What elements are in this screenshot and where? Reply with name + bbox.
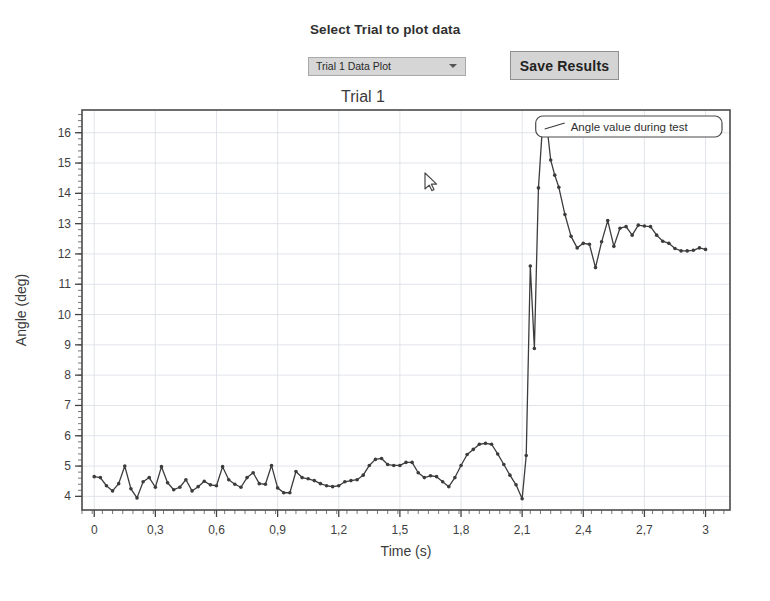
data-point <box>533 347 537 351</box>
data-point <box>416 471 420 475</box>
save-results-button[interactable]: Save Results <box>510 51 619 80</box>
data-point <box>553 173 557 177</box>
data-point <box>141 480 145 484</box>
chart-text: 15 <box>58 156 72 170</box>
data-point <box>386 463 390 467</box>
data-point <box>661 239 665 243</box>
chart-text: 2,4 <box>575 523 592 537</box>
data-point <box>563 213 567 217</box>
data-point <box>404 461 408 465</box>
data-point <box>172 488 176 492</box>
data-point <box>618 226 622 230</box>
data-point <box>423 476 427 480</box>
data-point <box>478 442 482 446</box>
data-point <box>257 482 261 486</box>
chart-text: 12 <box>58 247 72 261</box>
data-point <box>99 476 103 480</box>
data-point <box>447 485 451 489</box>
chart-text: 0,3 <box>147 523 164 537</box>
data-point <box>667 242 671 246</box>
chevron-down-icon <box>449 64 457 68</box>
data-point <box>147 476 151 480</box>
data-point <box>575 246 579 250</box>
data-point <box>692 249 696 253</box>
data-point <box>374 458 378 462</box>
data-point <box>264 482 268 486</box>
chart-text: Angle value during test <box>571 121 689 133</box>
data-point <box>331 485 335 489</box>
data-point <box>524 454 528 458</box>
trial-select-value: Trial 1 Data Plot <box>316 60 391 72</box>
data-point <box>178 485 182 489</box>
data-point <box>392 464 396 468</box>
chart-text: 1,5 <box>392 523 409 537</box>
chart-text: 1,2 <box>330 523 347 537</box>
data-point <box>251 471 255 475</box>
data-point <box>355 478 359 482</box>
data-point <box>325 484 329 488</box>
data-point <box>624 225 628 229</box>
chart-text: 0,9 <box>269 523 286 537</box>
data-point <box>600 240 604 244</box>
data-point <box>453 476 457 480</box>
data-point <box>233 482 237 486</box>
data-point <box>637 223 641 227</box>
data-point <box>117 482 121 486</box>
data-point <box>655 233 659 237</box>
data-point <box>306 477 310 481</box>
data-point <box>92 475 96 479</box>
chart-text: Time (s) <box>381 543 432 559</box>
data-point <box>300 476 304 480</box>
data-point <box>270 464 274 468</box>
chart-panel: Trial 1 00,30,60,91,21,51,82,12,42,73456… <box>0 84 770 601</box>
data-point <box>227 478 231 482</box>
data-point <box>239 485 243 489</box>
data-point <box>245 476 249 480</box>
data-point <box>496 452 500 456</box>
data-point <box>209 483 213 487</box>
data-point <box>679 249 683 253</box>
data-point <box>630 233 634 237</box>
data-point <box>643 224 647 228</box>
data-point <box>529 264 533 268</box>
chart-text: 16 <box>58 126 72 140</box>
data-point <box>154 485 158 489</box>
data-point <box>160 465 164 469</box>
data-point <box>196 485 200 489</box>
data-point <box>105 484 109 488</box>
data-point <box>673 247 677 251</box>
data-point <box>514 483 518 487</box>
data-point <box>649 225 653 229</box>
data-point <box>288 491 292 495</box>
data-point <box>698 246 702 250</box>
data-point <box>594 266 598 270</box>
data-point <box>435 475 439 479</box>
data-point <box>361 473 365 477</box>
data-point <box>337 484 341 488</box>
data-point <box>704 248 708 252</box>
data-point <box>129 487 133 491</box>
data-point <box>202 479 206 483</box>
chart-text: 6 <box>64 429 71 443</box>
data-point <box>508 473 512 477</box>
data-point <box>135 496 139 500</box>
chart-text: 0,6 <box>208 523 225 537</box>
data-point <box>569 235 573 239</box>
control-panel: Select Trial to plot data Trial 1 Data P… <box>0 0 770 92</box>
data-point <box>459 464 463 468</box>
data-point <box>471 448 475 452</box>
data-point <box>166 481 170 485</box>
data-point <box>343 480 347 484</box>
chart-text: 9 <box>64 338 71 352</box>
trial-select-dropdown[interactable]: Trial 1 Data Plot <box>308 57 466 76</box>
chart-text: 1,8 <box>453 523 470 537</box>
chart-text: 2,1 <box>514 523 531 537</box>
data-point <box>398 464 402 468</box>
data-point <box>282 491 286 495</box>
chart-text: 14 <box>58 186 72 200</box>
data-point <box>588 242 592 246</box>
select-trial-label: Select Trial to plot data <box>310 22 460 37</box>
chart-text: 10 <box>58 308 72 322</box>
data-point <box>410 461 414 465</box>
data-point <box>490 442 494 446</box>
